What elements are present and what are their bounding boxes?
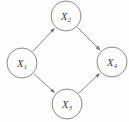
node-x2: X2 <box>51 1 81 31</box>
edge-group <box>33 27 101 93</box>
edge-x1-to-x3 <box>34 74 52 90</box>
dag-figure: X1 X2 X3 X4 <box>0 0 129 122</box>
dag-canvas: X1 X2 X3 X4 <box>0 0 129 122</box>
edge-x1-to-x2 <box>33 31 52 51</box>
node-x1: X1 <box>7 48 37 78</box>
node-x4: X4 <box>97 47 127 77</box>
edge-x3-to-x4 <box>79 76 97 93</box>
edge-x2-to-x4 <box>77 27 97 47</box>
node-group: X1 X2 X3 X4 <box>7 1 127 119</box>
node-x3: X3 <box>52 89 82 119</box>
